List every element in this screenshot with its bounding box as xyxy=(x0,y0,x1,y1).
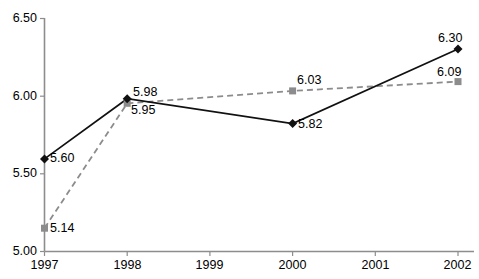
data-label-2000-gray: 6.03 xyxy=(297,74,321,87)
marker-square-2002 xyxy=(455,78,462,85)
series-dashed-gray-line xyxy=(45,82,459,229)
data-label-1998-black: 5.98 xyxy=(133,86,157,99)
data-label-2002-black: 6.30 xyxy=(438,32,462,45)
y-axis-tick-label-500: 5.00 xyxy=(0,245,37,258)
marker-square-2000 xyxy=(289,87,296,94)
marker-diamond-2002 xyxy=(454,45,463,54)
x-axis-tick-label-1999: 1999 xyxy=(182,259,237,272)
data-label-1998-gray: 5.95 xyxy=(131,104,155,117)
y-axis-tick-label-600: 6.00 xyxy=(0,90,37,103)
x-axis-tick-label-1997: 1997 xyxy=(17,259,72,272)
y-axis-tick-label-550: 5.50 xyxy=(0,167,37,180)
x-axis-tick-label-2002: 2002 xyxy=(430,259,479,272)
data-label-2002-gray: 6.09 xyxy=(437,66,461,79)
series-solid-black-line xyxy=(45,49,459,159)
y-axis-tick-label-650: 6.50 xyxy=(0,12,37,25)
x-axis-tick-label-1998: 1998 xyxy=(100,259,155,272)
data-label-2000-black: 5.82 xyxy=(298,118,322,131)
x-axis-tick-label-2001: 2001 xyxy=(348,259,403,272)
data-label-1997-gray: 5.14 xyxy=(50,222,74,235)
marker-diamond-2000 xyxy=(288,119,297,128)
marker-square-1997 xyxy=(41,225,48,232)
chart-plot-area xyxy=(0,0,479,279)
line-chart: 6.50 6.00 5.50 5.00 1997 1998 1999 2000 … xyxy=(0,0,479,279)
x-axis-tick-label-2000: 2000 xyxy=(265,259,320,272)
data-label-1997-black: 5.60 xyxy=(50,152,74,165)
